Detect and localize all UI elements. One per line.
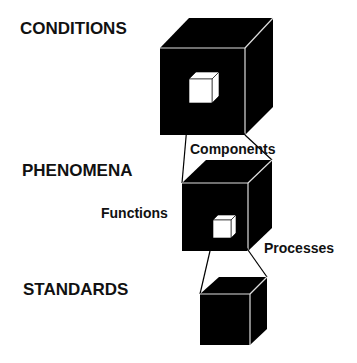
conditions-cube bbox=[160, 18, 273, 135]
label-processes: Processes bbox=[264, 240, 334, 256]
components-inner-cube bbox=[189, 72, 219, 103]
nested-cubes-diagram bbox=[0, 0, 357, 363]
label-components: Components bbox=[190, 141, 276, 157]
label-phenomena: PHENOMENA bbox=[22, 161, 133, 181]
phenomena-cube bbox=[182, 160, 272, 251]
label-conditions: CONDITIONS bbox=[20, 19, 127, 39]
processes-inner-cube bbox=[213, 215, 236, 238]
label-standards: STANDARDS bbox=[23, 280, 128, 300]
label-functions: Functions bbox=[101, 205, 168, 221]
standards-cube bbox=[200, 277, 267, 345]
